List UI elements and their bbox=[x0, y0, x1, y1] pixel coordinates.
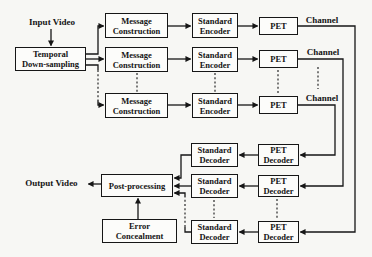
connector-layer bbox=[0, 0, 372, 257]
message-construction-box-1: Message Construction bbox=[105, 13, 168, 38]
wire-channel2-to-pd2 bbox=[298, 59, 343, 186]
pet-box-1: PET bbox=[259, 17, 298, 35]
arrow-temporal-to-mc3 bbox=[98, 100, 104, 105]
input-video-label: Input Video bbox=[22, 17, 82, 27]
pet-decoder-3-line2: Decoder bbox=[263, 232, 293, 242]
standard-decoder-box-2: Standard Decoder bbox=[191, 174, 238, 198]
message-construction-box-2: Message Construction bbox=[105, 47, 168, 72]
wire-channel3-to-pd1 bbox=[298, 105, 335, 155]
pet-box-3: PET bbox=[259, 96, 298, 114]
standard-encoder-2-line1: Standard bbox=[198, 50, 232, 60]
standard-decoder-box-1: Standard Decoder bbox=[191, 143, 238, 167]
temporal-downsampling-label-line1: Temporal bbox=[33, 49, 68, 59]
message-construction-1-line2: Construction bbox=[113, 26, 161, 36]
standard-encoder-box-3: Standard Encoder bbox=[192, 93, 238, 118]
standard-decoder-1-line2: Decoder bbox=[199, 155, 229, 165]
standard-encoder-1-line1: Standard bbox=[198, 16, 232, 26]
arrow-sd3-to-postprocessing bbox=[175, 193, 186, 197]
pet-decoder-2-line2: Decoder bbox=[263, 186, 293, 196]
standard-encoder-box-1: Standard Encoder bbox=[192, 13, 238, 38]
pet-decoder-3-line1: PET bbox=[270, 222, 287, 232]
temporal-downsampling-box: Temporal Down-sampling bbox=[15, 47, 86, 71]
pet-decoder-1-line2: Decoder bbox=[263, 155, 293, 165]
pet-decoder-box-3: PET Decoder bbox=[258, 221, 299, 243]
error-concealment-line1: Error bbox=[129, 221, 150, 231]
message-construction-3-line2: Construction bbox=[113, 106, 161, 116]
temporal-downsampling-label-line2: Down-sampling bbox=[22, 59, 79, 69]
error-concealment-line2: Concealment bbox=[116, 231, 164, 241]
standard-encoder-3-line2: Encoder bbox=[200, 106, 231, 116]
output-video-label: Output Video bbox=[22, 178, 81, 188]
standard-decoder-3-line2: Decoder bbox=[199, 232, 229, 242]
message-construction-3-line1: Message bbox=[121, 96, 152, 106]
block-diagram-canvas: Input Video Output Video Channel Channel… bbox=[0, 0, 372, 257]
pet-decoder-1-line1: PET bbox=[270, 145, 287, 155]
standard-encoder-box-2: Standard Encoder bbox=[192, 47, 238, 72]
standard-decoder-2-line1: Standard bbox=[197, 176, 231, 186]
standard-decoder-3-line1: Standard bbox=[197, 222, 231, 232]
channel-label-1: Channel bbox=[302, 15, 342, 25]
message-construction-2-line1: Message bbox=[121, 50, 152, 60]
post-processing-label: Post-processing bbox=[109, 181, 166, 191]
arrow-temporal-to-mc1 bbox=[86, 26, 104, 54]
standard-decoder-box-3: Standard Decoder bbox=[191, 220, 238, 244]
message-construction-box-3: Message Construction bbox=[105, 93, 168, 118]
pet-1-label: PET bbox=[270, 21, 287, 31]
error-concealment-box: Error Concealment bbox=[102, 219, 177, 243]
arrow-sd1-to-postprocessing bbox=[175, 155, 192, 178]
pet-box-2: PET bbox=[259, 50, 298, 68]
message-construction-2-line2: Construction bbox=[113, 60, 161, 70]
channel-label-2: Channel bbox=[303, 47, 343, 57]
post-processing-box: Post-processing bbox=[101, 174, 173, 197]
pet-decoder-2-line1: PET bbox=[270, 176, 287, 186]
standard-encoder-2-line2: Encoder bbox=[200, 60, 231, 70]
standard-encoder-3-line1: Standard bbox=[198, 96, 232, 106]
pet-decoder-box-2: PET Decoder bbox=[258, 175, 299, 197]
line-temporal-to-mc3-stub bbox=[86, 65, 98, 70]
pet-2-label: PET bbox=[270, 54, 287, 64]
standard-decoder-2-line2: Decoder bbox=[199, 186, 229, 196]
pet-decoder-box-1: PET Decoder bbox=[258, 144, 299, 166]
pet-3-label: PET bbox=[270, 100, 287, 110]
standard-encoder-1-line2: Encoder bbox=[200, 26, 231, 36]
standard-decoder-1-line1: Standard bbox=[197, 145, 231, 155]
channel-label-3: Channel bbox=[302, 93, 342, 103]
message-construction-1-line1: Message bbox=[121, 16, 152, 26]
